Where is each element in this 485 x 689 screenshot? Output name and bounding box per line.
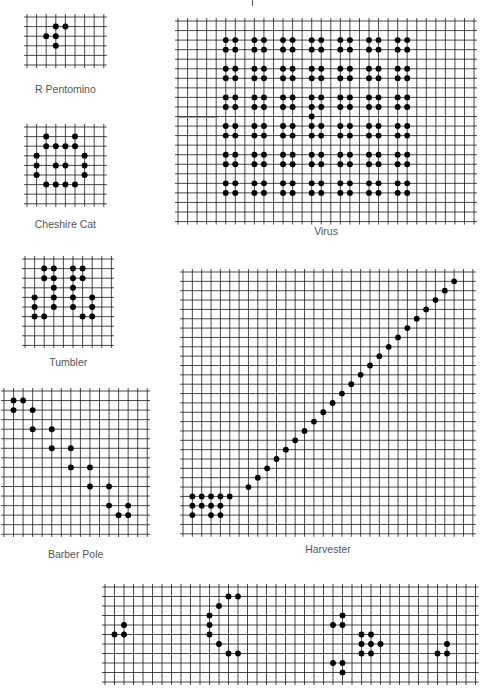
live-cell — [340, 660, 346, 666]
live-cell — [87, 484, 93, 490]
barber-pole-grid — [1, 388, 150, 537]
live-cell — [227, 494, 233, 500]
live-cell — [261, 37, 267, 43]
live-cell — [280, 133, 286, 139]
live-cell — [359, 651, 365, 657]
live-cell — [386, 344, 392, 350]
live-cell — [251, 152, 257, 158]
live-cell — [347, 152, 353, 158]
live-cell — [80, 275, 86, 281]
live-cell — [261, 180, 267, 186]
live-cell — [261, 47, 267, 53]
live-cell — [309, 47, 315, 53]
live-cell — [41, 275, 47, 281]
live-cell — [70, 275, 76, 281]
live-cell — [80, 266, 86, 272]
live-cell — [337, 190, 343, 196]
live-cell — [216, 603, 222, 609]
live-cell — [223, 66, 229, 72]
live-cell — [404, 37, 410, 43]
live-cell — [251, 123, 257, 129]
glider-gun-strip-grid — [102, 584, 479, 685]
live-cell — [223, 123, 229, 129]
live-cell — [261, 94, 267, 100]
live-cell — [280, 161, 286, 167]
live-cell — [199, 494, 205, 500]
live-cell — [280, 47, 286, 53]
live-cell — [290, 66, 296, 72]
live-cell — [366, 66, 372, 72]
live-cell — [223, 47, 229, 53]
live-cell — [264, 465, 270, 471]
live-cell — [251, 104, 257, 110]
live-cell — [82, 172, 88, 178]
live-cell — [337, 47, 343, 53]
live-cell — [435, 651, 441, 657]
live-cell — [376, 66, 382, 72]
live-cell — [318, 123, 324, 129]
live-cell — [376, 161, 382, 167]
live-cell — [347, 66, 353, 72]
live-cell — [395, 180, 401, 186]
live-cell — [223, 180, 229, 186]
live-cell — [309, 75, 315, 81]
live-cell — [337, 161, 343, 167]
live-cell — [223, 37, 229, 43]
live-cell — [223, 104, 229, 110]
live-cell — [112, 632, 118, 638]
live-cell — [199, 503, 205, 509]
r-pentomino-label: R Pentomino — [27, 83, 104, 95]
live-cell — [53, 182, 59, 188]
live-cell — [348, 381, 354, 387]
page-mark — [252, 0, 253, 6]
live-cell — [251, 94, 257, 100]
live-cell — [235, 594, 241, 600]
live-cell — [290, 190, 296, 196]
live-cell — [251, 161, 257, 167]
live-cell — [49, 445, 55, 451]
live-cell — [43, 33, 49, 39]
live-cell — [207, 622, 213, 628]
harvester-grid — [180, 269, 476, 537]
live-cell — [404, 161, 410, 167]
live-cell — [337, 180, 343, 186]
live-cell — [376, 75, 382, 81]
live-cell — [330, 622, 336, 628]
r-pentomino-grid — [24, 14, 107, 68]
live-cell — [347, 37, 353, 43]
live-cell — [53, 24, 59, 30]
live-cell — [223, 152, 229, 158]
live-cell — [366, 94, 372, 100]
live-cell — [20, 398, 26, 404]
live-cell — [72, 182, 78, 188]
live-cell — [51, 275, 57, 281]
live-cell — [347, 104, 353, 110]
live-cell — [378, 641, 384, 647]
live-cell — [280, 190, 286, 196]
live-cell — [53, 33, 59, 39]
live-cell — [404, 47, 410, 53]
live-cell — [208, 503, 214, 509]
live-cell — [53, 43, 59, 49]
live-cell — [82, 162, 88, 168]
live-cell — [51, 266, 57, 272]
live-cell — [62, 24, 68, 30]
live-cell — [302, 428, 308, 434]
live-cell — [80, 314, 86, 320]
live-cell — [261, 161, 267, 167]
live-cell — [444, 651, 450, 657]
live-cell — [395, 66, 401, 72]
live-cell — [309, 37, 315, 43]
live-cell — [232, 190, 238, 196]
live-cell — [290, 152, 296, 158]
live-cell — [232, 37, 238, 43]
live-cell — [309, 104, 315, 110]
live-cell — [280, 94, 286, 100]
live-cell — [70, 266, 76, 272]
live-cell — [292, 437, 298, 443]
live-cell — [251, 47, 257, 53]
live-cell — [68, 445, 74, 451]
live-cell — [232, 66, 238, 72]
live-cell — [51, 294, 57, 300]
live-cell — [451, 278, 457, 284]
